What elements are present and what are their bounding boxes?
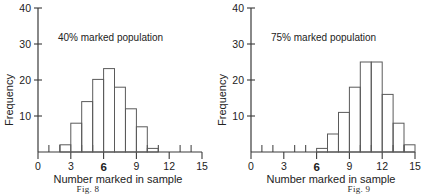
x-tick-label-12: 12 [163,160,175,172]
bar-fig-8-bin-5-6 [93,79,104,152]
x-tick-label-0: 0 [248,160,254,172]
bar-fig-8-bin-4-5 [82,102,93,152]
bar-fig-8-bin-2-3 [60,145,71,152]
x-ticks-minor-fig-9 [262,145,404,152]
histogram-fig-9: 40 30 20 10 Frequency [213,0,425,196]
x-tick-label-9: 9 [346,160,352,172]
figure-caption-fig-8: Fig. 8 [0,184,194,194]
x-tick-label-0: 0 [35,160,41,172]
y-tick-label-10: 10 [19,110,31,122]
x-tick-label-15: 15 [196,160,208,172]
figure-sheet: 40 30 20 10 Frequency [0,0,425,196]
figure-fig-8: 40 30 20 10 Frequency [0,0,212,196]
bar-fig-9-bin-10-11 [360,62,371,152]
bars-fig-8 [60,69,158,152]
x-ticks-minor-fig-8 [49,145,191,152]
bar-fig-9-bin-12-13 [382,94,393,152]
x-tick-label-3: 3 [281,160,287,172]
x-ticks-major-fig-9 [251,152,415,159]
bar-fig-9-bin-11-12 [371,62,382,152]
bar-fig-9-bin-9-10 [349,87,360,152]
bar-fig-8-bin-7-8 [115,87,126,152]
y-tick-label-30: 30 [19,38,31,50]
y-tick-label-40: 40 [19,2,31,14]
x-tick-label-3: 3 [68,160,74,172]
y-tick-label-10: 10 [232,110,244,122]
y-tick-label-30: 30 [232,38,244,50]
figure-caption-fig-9: Fig. 9 [253,184,425,194]
bar-fig-8-bin-6-7 [104,69,115,152]
y-tick-label-20: 20 [19,74,31,86]
annotation-fig-8: 40% marked population [58,32,163,43]
y-axis-title-fig-9: Frequency [216,74,228,126]
bars-fig-9 [317,62,415,152]
x-ticks-major-fig-8 [38,152,202,159]
x-tick-label-12: 12 [376,160,388,172]
annotation-fig-9: 75% marked population [271,32,376,43]
y-tick-label-20: 20 [232,74,244,86]
x-tick-label-9: 9 [133,160,139,172]
y-axis-title-fig-8: Frequency [3,74,15,126]
bar-fig-9-bin-14-15 [404,145,415,152]
bar-fig-9-bin-8-9 [339,112,350,152]
y-tick-label-40: 40 [232,2,244,14]
histogram-fig-8: 40 30 20 10 Frequency [0,0,212,196]
bar-fig-8-bin-3-4 [71,123,82,152]
bar-fig-9-bin-7-8 [328,134,339,152]
bar-fig-8-bin-8-9 [126,109,137,152]
figure-fig-9: 40 30 20 10 Frequency [213,0,425,196]
x-tick-label-15: 15 [409,160,421,172]
bar-fig-8-bin-9-10 [136,127,147,152]
bar-fig-9-bin-13-14 [393,123,404,152]
x-tick-label-6: 6 [100,161,106,173]
x-tick-label-6: 6 [313,161,319,173]
